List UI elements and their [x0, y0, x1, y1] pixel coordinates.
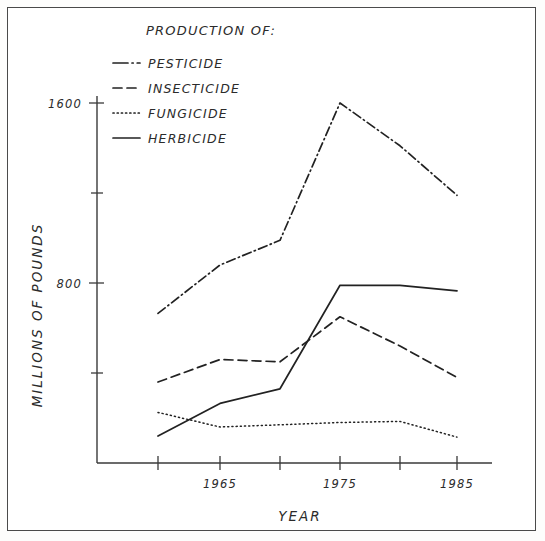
legend-title: PRODUCTION OF: [146, 23, 276, 38]
legend-label-herbicide: HERBICIDE [148, 131, 227, 146]
data-series-group [158, 103, 457, 437]
legend-label-pesticide: PESTICIDE [148, 56, 223, 71]
legend-item-fungicide[interactable]: FUNGICIDE [113, 106, 228, 121]
y-tick-label-1600: 1600 [48, 97, 82, 111]
chart-canvas: 1600 800 1965 1975 1985 YEAR MILLIONS OF… [0, 0, 545, 541]
chart-figure: 1600 800 1965 1975 1985 YEAR MILLIONS OF… [0, 0, 545, 541]
y-axis-title: MILLIONS OF POUNDS [29, 223, 45, 408]
x-axis-title: YEAR [278, 508, 321, 524]
series-line-herbicide [158, 285, 457, 436]
legend-label-insecticide: INSECTICIDE [148, 81, 240, 96]
x-tick-label-1965: 1965 [203, 477, 237, 491]
x-tick-label-1985: 1985 [440, 477, 474, 491]
legend-item-insecticide[interactable]: INSECTICIDE [113, 81, 240, 96]
legend: PRODUCTION OF: PESTICIDE INSECTICIDE FUN… [113, 23, 276, 146]
x-tick-label-1975: 1975 [323, 477, 357, 491]
series-line-insecticide [158, 317, 457, 382]
legend-label-fungicide: FUNGICIDE [148, 106, 228, 121]
legend-item-herbicide[interactable]: HERBICIDE [113, 131, 227, 146]
series-line-fungicide [158, 412, 457, 437]
y-tick-label-800: 800 [56, 277, 82, 291]
legend-item-pesticide[interactable]: PESTICIDE [113, 56, 223, 71]
axis-lines [97, 96, 492, 463]
